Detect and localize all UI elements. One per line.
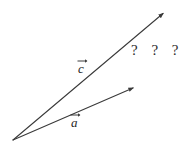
unknown-resultant-annotation: ? ? ? xyxy=(131,42,180,59)
vector-c-shaft xyxy=(13,14,163,141)
vector-arrow-accent-icon xyxy=(70,111,81,117)
vector-diagram-figure: c a ? ? ? xyxy=(0,0,180,148)
vector-a-letter: a xyxy=(71,115,78,130)
vector-c-label: c xyxy=(78,60,84,76)
vector-a-label: a xyxy=(71,114,78,130)
vector-arrow-accent-icon xyxy=(77,57,88,63)
vector-c-letter: c xyxy=(78,61,84,76)
vector-canvas xyxy=(0,0,180,148)
